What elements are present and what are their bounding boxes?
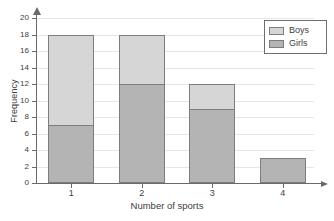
- y-tick-label: 18: [8, 31, 29, 39]
- y-tick-label: 10: [8, 97, 29, 105]
- y-tick-mark: [32, 68, 36, 69]
- y-tick-label: 14: [8, 64, 29, 72]
- y-tick-mark: [32, 84, 36, 85]
- x-axis-line: [36, 183, 322, 184]
- legend: Boys Girls: [264, 20, 327, 54]
- x-axis-arrow-icon: [321, 181, 328, 187]
- y-tick-label: 4: [8, 146, 29, 154]
- y-tick-label: 0: [8, 179, 29, 187]
- y-tick-mark: [32, 35, 36, 36]
- bar-stack[interactable]: [189, 84, 235, 183]
- y-tick-mark: [32, 18, 36, 19]
- y-tick-mark: [32, 183, 36, 184]
- legend-item-girls: Girls: [269, 37, 326, 50]
- x-tick-label: 3: [200, 188, 224, 198]
- y-tick-mark: [32, 101, 36, 102]
- bar-segment-girls[interactable]: [189, 109, 235, 183]
- y-tick-mark: [32, 150, 36, 151]
- bar-segment-boys[interactable]: [48, 35, 94, 127]
- bar-chart: Frequency 02468101214161820 1234 Number …: [0, 0, 334, 221]
- bar-segment-girls[interactable]: [119, 84, 165, 183]
- grid-line: [36, 18, 314, 19]
- y-tick-mark: [32, 51, 36, 52]
- bar-segment-boys[interactable]: [189, 84, 235, 110]
- x-tick-label: 1: [59, 188, 83, 198]
- y-tick-label: 2: [8, 163, 29, 171]
- bar-stack[interactable]: [119, 35, 165, 184]
- bar-segment-girls[interactable]: [260, 158, 306, 183]
- bar-segment-girls[interactable]: [48, 125, 94, 183]
- legend-swatch-boys-icon: [269, 27, 284, 35]
- bar-stack[interactable]: [260, 158, 306, 183]
- legend-item-boys: Boys: [269, 24, 326, 37]
- legend-label-girls: Girls: [289, 39, 308, 48]
- bar-segment-boys[interactable]: [119, 35, 165, 86]
- legend-swatch-girls-icon: [269, 40, 284, 48]
- y-tick-label: 12: [8, 80, 29, 88]
- x-axis-title: Number of sports: [0, 200, 334, 211]
- y-tick-mark: [32, 134, 36, 135]
- y-tick-label: 6: [8, 130, 29, 138]
- y-tick-label: 20: [8, 14, 29, 22]
- x-tick-label: 4: [271, 188, 295, 198]
- y-tick-mark: [32, 167, 36, 168]
- bar-stack[interactable]: [48, 35, 94, 184]
- legend-label-boys: Boys: [289, 26, 309, 35]
- y-axis-line: [36, 14, 37, 183]
- x-tick-label: 2: [130, 188, 154, 198]
- y-tick-label: 8: [8, 113, 29, 121]
- y-axis-arrow-icon: [33, 7, 41, 15]
- y-tick-label: 16: [8, 47, 29, 55]
- y-tick-mark: [32, 117, 36, 118]
